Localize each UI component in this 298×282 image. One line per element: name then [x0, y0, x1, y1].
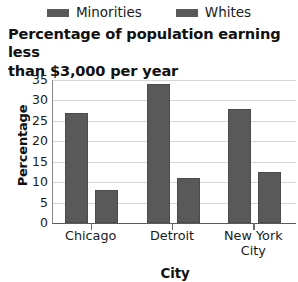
y-axis-tick-label: 30 — [32, 94, 48, 107]
legend-swatch-whites — [176, 9, 198, 17]
y-axis-tick-labels: 05101520253035 — [22, 74, 48, 223]
y-axis-tick-label: 5 — [40, 196, 48, 209]
y-axis-tick-label: 10 — [32, 176, 48, 189]
y-axis-tick-label: 0 — [40, 217, 48, 230]
legend-entry-whites: Whites — [176, 6, 251, 20]
bar-new-york-city-whites — [258, 172, 281, 223]
x-axis-tick-labels: ChicagoDetroitNew YorkCity — [52, 229, 298, 269]
legend-label-whites: Whites — [205, 6, 251, 20]
x-axis-tick-label-line: New York — [208, 229, 298, 244]
x-axis-tick-label: Detroit — [127, 229, 217, 244]
y-axis-tick-label: 20 — [32, 135, 48, 148]
legend-swatch-minorities — [47, 9, 69, 17]
y-axis-tick-label: 25 — [32, 115, 48, 128]
bar-chicago-whites — [95, 190, 118, 223]
x-axis-title: City — [52, 266, 298, 281]
legend-label-minorities: Minorities — [76, 6, 142, 20]
chart-title-line-1: Percentage of population earning less — [8, 25, 292, 62]
chart-legend: Minorities Whites — [0, 0, 298, 22]
legend-entry-minorities: Minorities — [47, 6, 142, 20]
x-axis-tick-label: New YorkCity — [208, 229, 298, 259]
bar-chicago-minorities — [65, 113, 88, 223]
chart-plot-area: Percentage 05101520253035 ChicagoDetroit… — [0, 74, 298, 282]
y-axis-tick-label: 35 — [32, 74, 48, 87]
plot-region — [52, 80, 296, 224]
bar-detroit-minorities — [147, 84, 170, 223]
bar-detroit-whites — [177, 178, 200, 223]
x-axis-tick-label: Chicago — [46, 229, 136, 244]
bar-group-container — [53, 80, 296, 223]
bar-new-york-city-minorities — [228, 109, 251, 223]
x-axis-tick-label-line: Chicago — [46, 229, 136, 244]
x-axis-tick-label-line: City — [208, 244, 298, 259]
x-axis-tick-label-line: Detroit — [127, 229, 217, 244]
y-axis-tick-label: 15 — [32, 155, 48, 168]
